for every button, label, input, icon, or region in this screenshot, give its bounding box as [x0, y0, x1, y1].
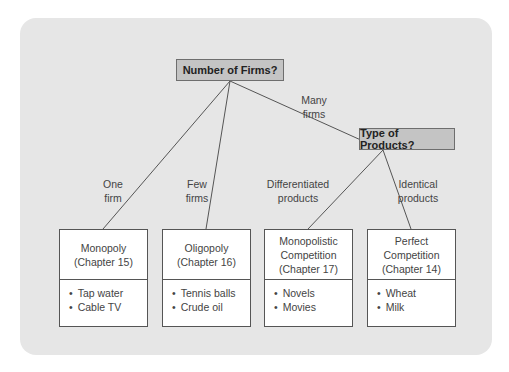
edge-label-line: One — [88, 177, 138, 191]
edge-label-line: Few — [172, 177, 222, 191]
market-title: Competition — [280, 248, 336, 262]
market-box-oligopoly: Oligopoly (Chapter 16) Tennis balls Crud… — [162, 229, 251, 327]
example-list: Tap water Cable TV — [60, 280, 147, 314]
example-item: Cable TV — [69, 300, 147, 314]
edge-label-line: firms — [172, 191, 222, 205]
example-item: Tap water — [69, 286, 147, 300]
market-title: Oligopoly — [185, 241, 229, 255]
edge-label-few-firms: Few firms — [172, 177, 222, 205]
market-box-monopolistic-competition: Monopolistic Competition (Chapter 17) No… — [264, 229, 353, 327]
market-title: Competition — [383, 248, 439, 262]
market-heading: Monopolistic Competition (Chapter 17) — [265, 230, 352, 280]
sub-question-label: Type of Products? — [360, 127, 454, 151]
market-chapter: (Chapter 16) — [177, 255, 236, 269]
example-list: Wheat Milk — [368, 280, 455, 314]
example-item: Tennis balls — [172, 286, 250, 300]
number-of-firms-question: Number of Firms? — [176, 59, 284, 81]
market-chapter: (Chapter 17) — [279, 262, 338, 276]
market-chapter: (Chapter 14) — [382, 262, 441, 276]
edge-label-line: Differentiated — [258, 177, 338, 191]
edge-label-line: products — [388, 191, 448, 205]
market-title: Monopoly — [81, 241, 127, 255]
edge-label-one-firm: One firm — [88, 177, 138, 205]
market-title: Monopolistic — [279, 234, 337, 248]
edge-label-line: firms — [289, 107, 339, 121]
root-question-label: Number of Firms? — [183, 64, 278, 76]
edge-label-line: Many — [289, 93, 339, 107]
market-heading: Perfect Competition (Chapter 14) — [368, 230, 455, 280]
market-chapter: (Chapter 15) — [74, 255, 133, 269]
example-item: Crude oil — [172, 300, 250, 314]
edge-label-line: products — [258, 191, 338, 205]
edge-label-line: Identical — [388, 177, 448, 191]
market-heading: Oligopoly (Chapter 16) — [163, 230, 250, 280]
example-item: Milk — [377, 300, 455, 314]
edge-label-line: firm — [88, 191, 138, 205]
type-of-products-question: Type of Products? — [359, 128, 455, 150]
example-list: Tennis balls Crude oil — [163, 280, 250, 314]
edge-label-differentiated-products: Differentiated products — [258, 177, 338, 205]
edge-label-identical-products: Identical products — [388, 177, 448, 205]
market-box-perfect-competition: Perfect Competition (Chapter 14) Wheat M… — [367, 229, 456, 327]
market-heading: Monopoly (Chapter 15) — [60, 230, 147, 280]
edge-label-many-firms: Many firms — [289, 93, 339, 121]
market-box-monopoly: Monopoly (Chapter 15) Tap water Cable TV — [59, 229, 148, 327]
example-item: Novels — [274, 286, 352, 300]
example-list: Novels Movies — [265, 280, 352, 314]
example-item: Wheat — [377, 286, 455, 300]
market-title: Perfect — [395, 234, 428, 248]
example-item: Movies — [274, 300, 352, 314]
